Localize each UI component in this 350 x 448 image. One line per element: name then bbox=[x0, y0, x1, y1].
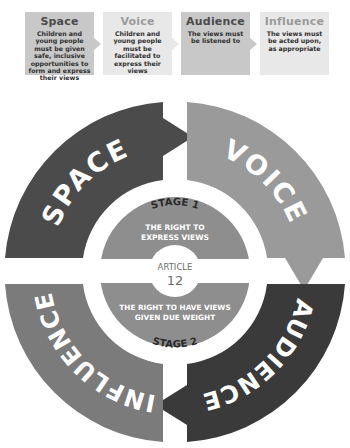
stage-1-text-line-2: EXPRESS VIEWS bbox=[141, 233, 209, 242]
article-label: ARTICLE bbox=[158, 262, 193, 272]
article-number: 12 bbox=[167, 273, 184, 288]
stage-2-text-line-1: THE RIGHT TO HAVE VIEWS bbox=[119, 303, 230, 312]
article-12-ring-diagram: SPACE VOICE AUDIENCE INFLUENCE STAGE 1 T… bbox=[0, 0, 350, 448]
stage-2-text-line-2: GIVEN DUE WEIGHT bbox=[135, 313, 215, 322]
stage-1-text-line-1: THE RIGHT TO bbox=[145, 223, 204, 232]
